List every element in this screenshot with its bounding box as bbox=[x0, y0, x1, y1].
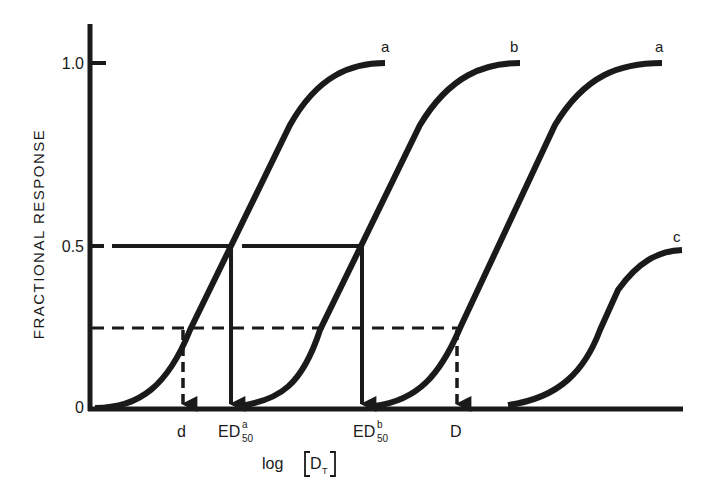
svg-text:log: log bbox=[262, 455, 283, 472]
marker-label-ed50b: ED b 50 bbox=[353, 419, 389, 444]
curve-b bbox=[240, 63, 520, 406]
marker-label-ed50a: ED a 50 bbox=[218, 419, 254, 444]
y-axis-title: FRACTIONAL RESPONSE bbox=[30, 129, 47, 339]
x-axis-title: log D T bbox=[262, 452, 335, 476]
dose-response-figure: 1.0 0.5 0 FRACTIONAL RESPONSE a b a c d … bbox=[0, 0, 705, 501]
svg-text:50: 50 bbox=[377, 433, 389, 444]
y-tick-label-0: 0 bbox=[75, 399, 84, 416]
svg-text:ED: ED bbox=[218, 423, 240, 440]
svg-text:D: D bbox=[310, 455, 322, 472]
svg-text:T: T bbox=[322, 466, 328, 476]
y-tick-label-1: 1.0 bbox=[62, 55, 84, 72]
svg-text:50: 50 bbox=[242, 433, 254, 444]
curve-label-c: c bbox=[673, 228, 681, 245]
svg-text:ED: ED bbox=[353, 423, 375, 440]
curve-label-b: b bbox=[510, 38, 518, 55]
svg-text:a: a bbox=[242, 419, 248, 430]
curve-label-a1: a bbox=[381, 38, 390, 55]
curve-label-a2: a bbox=[655, 38, 664, 55]
right-bracket bbox=[330, 452, 335, 476]
curve-a1 bbox=[95, 63, 385, 408]
svg-text:b: b bbox=[377, 419, 383, 430]
marker-label-D: D bbox=[450, 423, 462, 440]
curve-a2 bbox=[375, 63, 662, 406]
curve-c bbox=[508, 250, 682, 405]
chart-svg: 1.0 0.5 0 FRACTIONAL RESPONSE a b a c d … bbox=[0, 0, 705, 501]
marker-label-d: d bbox=[177, 423, 186, 440]
y-tick-label-05: 0.5 bbox=[62, 238, 84, 255]
